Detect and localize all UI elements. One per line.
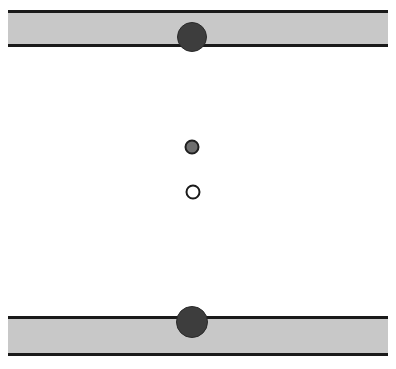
center-open-particle [187, 186, 200, 199]
diagram-figure [0, 0, 396, 369]
center-mid-particle [186, 141, 199, 154]
top-large-particle [178, 23, 207, 52]
diagram-canvas [0, 0, 396, 369]
bottom-large-particle [177, 307, 208, 338]
